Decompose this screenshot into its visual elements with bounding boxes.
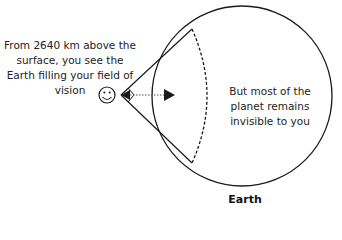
sight-line-lower xyxy=(121,95,192,163)
visible-horizon-arc xyxy=(192,29,207,163)
earth-label: Earth xyxy=(225,193,265,206)
distance-arrowhead-icon xyxy=(164,89,175,101)
observer-caption: From 2640 km above the surface, you see … xyxy=(2,38,138,98)
hidden-portion-caption: But most of the planet remains invisible… xyxy=(222,84,318,129)
